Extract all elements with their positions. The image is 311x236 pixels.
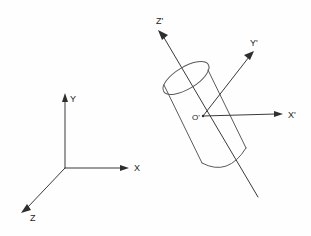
global-y-axis-label: Y bbox=[70, 94, 76, 104]
global-coordinate-frame: Y X Z bbox=[21, 93, 140, 223]
body-y-axis-label: Y' bbox=[250, 38, 258, 48]
global-z-axis-line bbox=[27, 168, 65, 208]
body-y-axis-arrowhead bbox=[244, 51, 254, 60]
global-x-axis-label: X bbox=[134, 163, 140, 173]
tilted-cylinder bbox=[158, 55, 246, 167]
body-x-axis-arrowhead bbox=[274, 111, 283, 117]
global-z-axis: Z bbox=[21, 168, 65, 223]
body-x-axis-line bbox=[203, 114, 276, 116]
global-x-axis: X bbox=[65, 163, 140, 173]
body-z-axis-label: Z' bbox=[156, 16, 163, 26]
body-z-axis-arrowhead bbox=[158, 30, 168, 40]
body-origin-label: O' bbox=[192, 113, 200, 122]
cylinder-right-edge bbox=[208, 70, 246, 148]
global-z-axis-label: Z bbox=[30, 213, 36, 223]
cylinder-top-cap bbox=[158, 55, 214, 101]
body-origin-point bbox=[202, 115, 204, 117]
diagram-canvas: Y X Z Z' bbox=[0, 0, 311, 236]
body-x-axis: X' bbox=[203, 110, 296, 120]
body-z-axis-line bbox=[163, 36, 258, 197]
global-x-axis-arrowhead bbox=[120, 165, 129, 171]
body-coordinate-frame: Z' Y' X' O' bbox=[156, 16, 296, 197]
global-y-axis-arrowhead bbox=[62, 93, 68, 102]
body-x-axis-label: X' bbox=[288, 110, 296, 120]
body-z-axis: Z' bbox=[156, 16, 258, 197]
global-y-axis: Y bbox=[62, 93, 76, 168]
cylinder-left-edge bbox=[164, 85, 202, 163]
